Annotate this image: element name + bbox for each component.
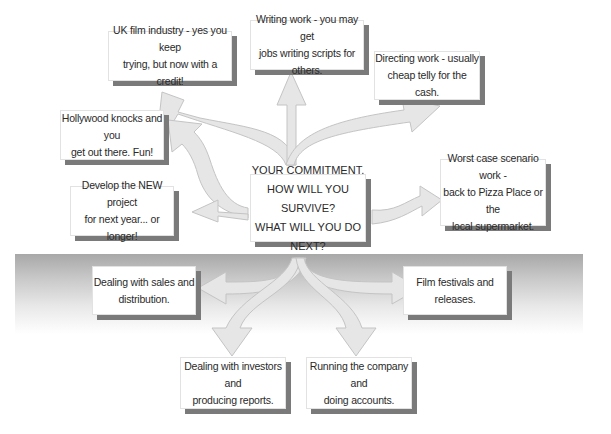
option-text-line: Directing work - usually (375, 50, 479, 67)
option-text-line: Develop the NEW project (71, 177, 173, 211)
option-text-line: back to Pizza Place or the (441, 184, 545, 218)
option-text-line: Writing work - you may get (251, 11, 363, 45)
option-writing: Writing work - you may get jobs writing … (250, 20, 364, 70)
option-text-line: producing reports. (181, 392, 285, 409)
option-uk-film: UK film industry - yes you keep trying, … (108, 31, 232, 81)
option-text-line: local supermarket. (441, 218, 545, 235)
arrow-to-hollywood (168, 120, 248, 218)
option-hollywood: Hollywood knocks and you get out there. … (60, 110, 164, 160)
option-text-line: UK film industry - yes you keep (109, 22, 231, 56)
option-worst-case: Worst case scenario work - back to Pizza… (440, 159, 546, 226)
option-text-line: trying, but now with a credit! (109, 56, 231, 90)
option-festivals: Film festivals and releases. (403, 266, 507, 315)
center-text-line: HOW WILL YOU SURVIVE? (251, 180, 365, 218)
arrow-to-directing (286, 98, 440, 165)
option-text-line: Hollywood knocks and you (61, 110, 163, 144)
option-sales: Dealing with sales and distribution. (92, 266, 196, 315)
central-question: YOUR COMMITMENT. HOW WILL YOU SURVIVE? W… (250, 174, 366, 242)
arrow-to-running (296, 258, 376, 356)
option-investors: Dealing with investors and producing rep… (180, 357, 286, 409)
option-text-line: Dealing with investors and (181, 358, 285, 392)
arrow-to-worst-case (372, 186, 442, 224)
center-text-line: YOUR COMMITMENT. (251, 161, 365, 180)
option-text-line: doing accounts. (307, 392, 411, 409)
center-text-line: WHAT WILL YOU DO NEXT? (251, 218, 365, 256)
option-new-project: Develop the NEW project for next year...… (70, 186, 174, 236)
option-text-line: for next year... or longer! (71, 211, 173, 245)
option-running: Running the company and doing accounts. (306, 357, 412, 409)
option-text-line: Running the company and (307, 358, 411, 392)
option-directing: Directing work - usually cheap telly for… (374, 51, 480, 100)
option-text-line: Film festivals and releases. (404, 274, 506, 308)
option-text-line: jobs writing scripts for others. (251, 45, 363, 79)
option-text-line: distribution. (94, 291, 195, 308)
option-text-line: Worst case scenario work - (441, 150, 545, 184)
option-text-line: Dealing with sales and (94, 274, 195, 291)
option-text-line: get out there. Fun! (61, 144, 163, 161)
option-text-line: cheap telly for the cash. (375, 67, 479, 101)
